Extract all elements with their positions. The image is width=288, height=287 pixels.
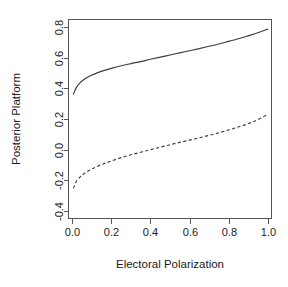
series-lower-curve bbox=[73, 115, 267, 189]
x-axis-tick-labels: 0.00.20.40.60.81.0 bbox=[65, 226, 276, 238]
y-tick-label: -0.2 bbox=[53, 171, 65, 190]
plot-frame bbox=[69, 20, 272, 219]
series-upper-curve bbox=[73, 29, 267, 94]
chart-figure: 0.00.20.40.60.81.0 -0.4-0.20.00.20.40.60… bbox=[0, 0, 288, 287]
y-axis-tick-labels: -0.4-0.20.00.20.40.60.8 bbox=[53, 20, 65, 221]
y-tick-label: -0.4 bbox=[53, 202, 65, 221]
y-axis-title: Posterior Platform bbox=[10, 73, 22, 165]
x-axis-title: Electoral Polarization bbox=[116, 258, 224, 270]
x-tick-label: 0.4 bbox=[143, 226, 158, 238]
x-tick-label: 0.6 bbox=[183, 226, 198, 238]
y-tick-label: 0.8 bbox=[53, 20, 65, 35]
data-series-group bbox=[73, 29, 267, 188]
plot-canvas: 0.00.20.40.60.81.0 -0.4-0.20.00.20.40.60… bbox=[0, 0, 288, 287]
plot-box bbox=[69, 20, 272, 219]
x-tick-label: 0.0 bbox=[65, 226, 80, 238]
y-tick-label: 0.2 bbox=[53, 112, 65, 127]
y-tick-label: 0.6 bbox=[53, 51, 65, 66]
y-tick-label: 0.0 bbox=[53, 143, 65, 158]
y-tick-label: 0.4 bbox=[53, 81, 65, 96]
x-tick-label: 1.0 bbox=[261, 226, 276, 238]
x-tick-label: 0.8 bbox=[222, 226, 237, 238]
x-tick-label: 0.2 bbox=[104, 226, 119, 238]
x-axis-ticks bbox=[73, 219, 269, 224]
